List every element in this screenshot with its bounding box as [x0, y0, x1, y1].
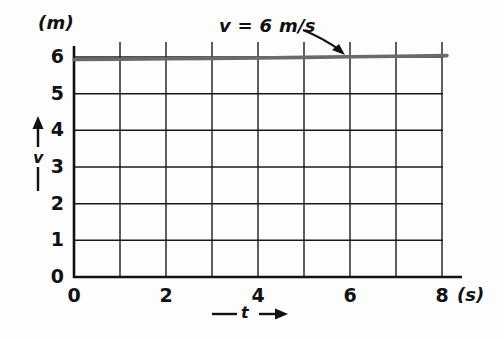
y-tick-label-6: 6 — [44, 47, 64, 66]
y-tick-label-4: 4 — [44, 120, 64, 139]
velocity-annotation-label: v = 6 m/s — [219, 17, 316, 35]
y-tick-label-3: 3 — [44, 157, 64, 176]
x-tick-label-2: 2 — [154, 286, 178, 305]
x-tick-label-8: 8 — [430, 286, 454, 305]
y-tick-label-0: 0 — [44, 267, 64, 286]
y-tick-label-1: 1 — [44, 230, 64, 249]
y-tick-label-5: 5 — [44, 84, 64, 103]
velocity-time-graph-figure: (m) v 6 5 4 3 2 1 0 0 2 4 6 8 (s) t v = … — [0, 0, 504, 339]
velocity-curve — [74, 56, 447, 60]
x-tick-label-0: 0 — [62, 286, 86, 305]
x-axis-direction-arrow-icon — [212, 309, 288, 320]
y-axis-variable-label: v — [33, 150, 43, 166]
y-axis-unit-label: (m) — [38, 14, 74, 32]
x-tick-label-4: 4 — [246, 286, 270, 305]
x-tick-label-6: 6 — [338, 286, 362, 305]
x-axis-variable-label: t — [241, 305, 249, 321]
x-axis-unit-label: (s) — [457, 286, 484, 304]
vertical-gridlines — [120, 42, 442, 277]
y-tick-label-2: 2 — [44, 194, 64, 213]
